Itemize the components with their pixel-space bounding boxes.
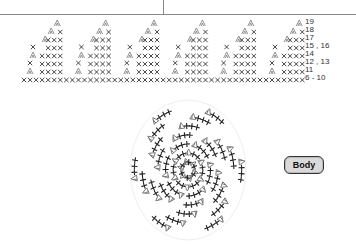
edging-stitch-chart [0,0,356,100]
body-label-badge: Body [284,156,324,174]
row-label: 6 - 10 [305,74,325,82]
body-label: Body [293,160,316,170]
body-round-chart [128,96,248,244]
